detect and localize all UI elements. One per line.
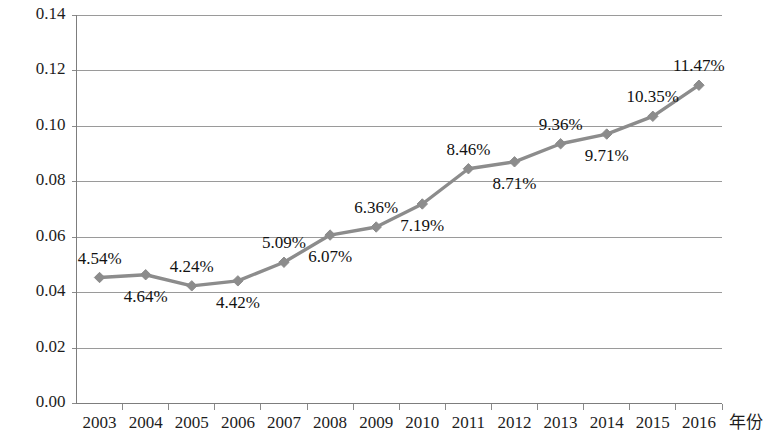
data-point-label: 11.47% bbox=[673, 56, 725, 75]
chart-canvas: 0.140.120.100.080.060.040.020.00 2003200… bbox=[0, 0, 778, 435]
x-axis-title: 年份 bbox=[729, 413, 763, 432]
data-point-label: 6.36% bbox=[354, 198, 398, 217]
x-axis-tick-label: 2011 bbox=[452, 413, 485, 432]
x-axis-tick-label: 2016 bbox=[682, 413, 716, 432]
y-axis-tick-label: 0.04 bbox=[36, 281, 66, 300]
x-axis-tick-label: 2010 bbox=[405, 413, 439, 432]
x-axis-tick-label: 2012 bbox=[498, 413, 532, 432]
data-point-label: 9.71% bbox=[585, 146, 629, 165]
x-axis-tick-label: 2006 bbox=[221, 413, 255, 432]
x-axis-tick-label: 2009 bbox=[359, 413, 393, 432]
data-point-label: 6.07% bbox=[308, 247, 352, 266]
x-axis-tick-label: 2014 bbox=[590, 413, 625, 432]
data-point-label: 4.54% bbox=[78, 249, 122, 268]
y-axis-tick-label: 0.08 bbox=[36, 170, 66, 189]
data-point-label: 9.36% bbox=[539, 115, 583, 134]
y-axis-tick-label: 0.14 bbox=[36, 4, 66, 23]
data-point-label: 4.24% bbox=[170, 257, 214, 276]
chart-background bbox=[0, 0, 778, 435]
line-chart: 0.140.120.100.080.060.040.020.00 2003200… bbox=[0, 0, 778, 435]
y-axis-tick-label: 0.12 bbox=[36, 59, 66, 78]
data-point-label: 10.35% bbox=[627, 87, 679, 106]
x-axis-tick-label: 2003 bbox=[83, 413, 117, 432]
x-axis-tick-label: 2013 bbox=[544, 413, 578, 432]
data-point-label: 8.46% bbox=[446, 140, 490, 159]
data-point-label: 4.64% bbox=[124, 287, 168, 306]
y-axis-tick-label: 0.06 bbox=[36, 226, 66, 245]
data-point-label: 5.09% bbox=[262, 233, 306, 252]
y-axis-tick-label: 0.10 bbox=[36, 115, 66, 134]
x-axis-tick-label: 2015 bbox=[636, 413, 670, 432]
x-axis-tick-label: 2007 bbox=[267, 413, 302, 432]
data-point-label: 7.19% bbox=[400, 216, 444, 235]
data-point-label: 4.42% bbox=[216, 293, 260, 312]
x-axis-tick-label: 2008 bbox=[313, 413, 347, 432]
x-axis-tick-label: 2005 bbox=[175, 413, 209, 432]
x-axis-tick-label: 2004 bbox=[129, 413, 164, 432]
y-axis-tick-label: 0.02 bbox=[36, 337, 66, 356]
y-axis-tick-label: 0.00 bbox=[36, 392, 66, 411]
data-point-label: 8.71% bbox=[493, 174, 537, 193]
